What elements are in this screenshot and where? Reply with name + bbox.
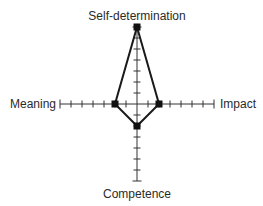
axis-label-meaning: Meaning — [10, 97, 56, 111]
data-point-marker-impact — [156, 101, 163, 108]
axis-label-self-determination: Self-determination — [0, 9, 263, 23]
axis-label-impact: Impact — [220, 97, 256, 111]
data-point-marker-competence — [134, 123, 141, 130]
data-point-marker-meaning — [112, 101, 119, 108]
empowerment-diagram: Self-determination Impact Competence Mea… — [0, 0, 263, 206]
axis-label-competence: Competence — [0, 187, 263, 201]
data-point-marker-self-determination — [134, 24, 141, 31]
